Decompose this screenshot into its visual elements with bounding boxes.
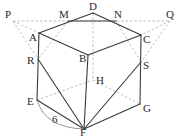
cube-diagram: P M D N Q A B C R S H E G F 6	[0, 0, 181, 136]
label-G: G	[143, 102, 151, 114]
label-A: A	[29, 31, 37, 43]
label-E: E	[27, 95, 34, 107]
label-D: D	[89, 0, 97, 12]
label-N: N	[114, 8, 122, 20]
label-M: M	[59, 8, 69, 20]
solid-lines	[37, 13, 141, 129]
label-H: H	[96, 74, 104, 86]
edge-BC	[88, 35, 141, 55]
line-MR	[38, 21, 68, 59]
edge-CG	[140, 35, 141, 104]
edge-BF	[84, 55, 88, 129]
label-B: B	[79, 52, 86, 64]
label-R: R	[27, 54, 35, 66]
edge-AE	[37, 33, 39, 100]
line-NS	[116, 21, 141, 62]
label-F: F	[80, 126, 86, 136]
label-S: S	[143, 59, 149, 71]
line-RF	[38, 59, 84, 129]
label-P: P	[5, 8, 11, 20]
edge-length-label: 6	[52, 113, 58, 125]
label-C: C	[143, 33, 150, 45]
edge-FG	[84, 104, 140, 129]
label-Q: Q	[166, 8, 174, 20]
edge-EH	[37, 80, 93, 100]
point-labels: P M D N Q A B C R S H E G F 6	[5, 0, 174, 136]
